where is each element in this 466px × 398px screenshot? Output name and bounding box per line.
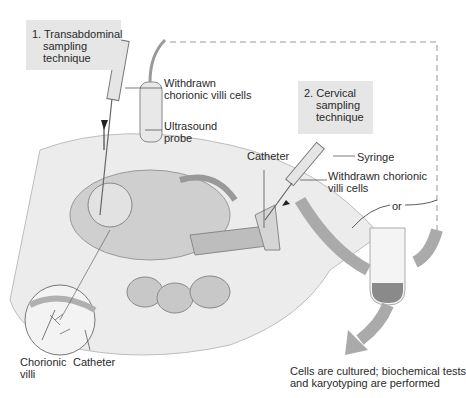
ultrasound-probe [140, 82, 162, 142]
technique-1-line3: technique [43, 52, 91, 64]
label-withdrawn-cells-1b: chorionic villi cells [164, 89, 251, 101]
label-withdrawn-cells-2b: villi cells [328, 182, 368, 194]
technique-2-title: 2. Cervical [304, 87, 356, 99]
technique-1-title: 1. Transabdominal [32, 28, 123, 40]
technique-2-line3: technique [316, 111, 364, 123]
label-withdrawn-cells-1a: Withdrawn [164, 77, 216, 89]
label-or: or [392, 200, 402, 212]
label-chorionic-villi-b: villi [20, 368, 35, 380]
label-ultrasound-b: probe [164, 132, 192, 144]
label-catheter-bottom: Catheter [73, 356, 115, 368]
fetus [88, 183, 132, 227]
label-chorionic-villi-a: Chorionic [20, 356, 66, 368]
label-ultrasound-a: Ultrasound [164, 120, 217, 132]
label-catheter-top: Catheter [247, 150, 289, 162]
label-result-b: and karyotyping are performed [290, 377, 440, 389]
technique-2-line2: sampling [316, 99, 360, 111]
technique-1-line2: sampling [43, 40, 87, 52]
label-syringe: Syringe [357, 151, 394, 163]
label-result-a: Cells are cultured; biochemical tests [290, 365, 466, 377]
label-withdrawn-cells-2a: Withdrawn chorionic [328, 170, 427, 182]
